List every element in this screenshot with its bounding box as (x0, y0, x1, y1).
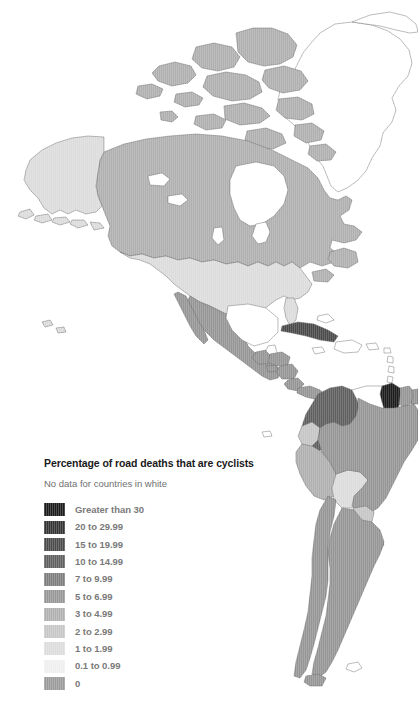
region-alaska (24, 136, 104, 214)
legend-item: 3 to 4.99 (44, 605, 374, 622)
region-el-salvador (266, 365, 278, 372)
legend-swatch (44, 503, 65, 516)
legend-item: 7 to 9.99 (44, 571, 374, 588)
legend-label: 15 to 19.99 (75, 540, 123, 550)
region-puerto-rico (366, 343, 379, 350)
legend-item: 0.1 to 0.99 (44, 658, 374, 675)
legend-label: 0.1 to 0.99 (75, 661, 120, 671)
region-nicaragua (276, 364, 298, 379)
map-legend: Percentage of road deaths that are cycli… (44, 458, 374, 692)
legend-label: Greater than 30 (75, 505, 144, 515)
region-florida (284, 298, 298, 326)
legend-label: 20 to 29.99 (75, 522, 123, 532)
island-hawaii (42, 320, 53, 327)
legend-item: 10 to 14.99 (44, 553, 374, 570)
legend-swatch (44, 642, 65, 655)
legend-swatch (44, 608, 65, 621)
island-hawaii-2 (56, 327, 66, 333)
legend-item: 15 to 19.99 (44, 536, 374, 553)
region-nova-scotia (312, 269, 334, 282)
legend-label: 10 to 14.99 (75, 557, 123, 567)
region-jamaica (312, 347, 325, 354)
legend-swatch (44, 573, 65, 586)
region-hispaniola (334, 340, 362, 353)
region-honduras (268, 352, 290, 366)
legend-swatch (44, 677, 65, 690)
legend-item: 5 to 6.99 (44, 588, 374, 605)
legend-scale: Greater than 30 20 to 29.99 15 to 19.99 … (44, 501, 374, 692)
legend-item: 20 to 29.99 (44, 518, 374, 535)
region-cuba (281, 322, 338, 342)
region-lesser-antilles (384, 348, 394, 383)
legend-label: 2 to 2.99 (75, 627, 113, 637)
legend-label: 5 to 6.99 (75, 592, 113, 602)
island-galapagos (262, 431, 272, 437)
legend-item: 0 (44, 675, 374, 692)
choropleth-map-figure: Percentage of road deaths that are cycli… (0, 0, 418, 713)
legend-swatch (44, 660, 65, 673)
legend-item: 1 to 1.99 (44, 640, 374, 657)
legend-subtitle: No data for countries in white (44, 479, 374, 489)
legend-swatch (44, 590, 65, 603)
legend-swatch (44, 555, 65, 568)
legend-label: 1 to 1.99 (75, 644, 113, 654)
legend-label: 7 to 9.99 (75, 574, 113, 584)
legend-swatch (44, 521, 65, 534)
legend-swatch (44, 625, 65, 638)
region-bahamas (317, 314, 334, 323)
legend-item: Greater than 30 (44, 501, 374, 518)
legend-label: 3 to 4.99 (75, 609, 113, 619)
legend-title: Percentage of road deaths that are cycli… (44, 458, 374, 470)
legend-item: 2 to 2.99 (44, 623, 374, 640)
legend-label: 0 (75, 679, 80, 689)
legend-swatch (44, 538, 65, 551)
